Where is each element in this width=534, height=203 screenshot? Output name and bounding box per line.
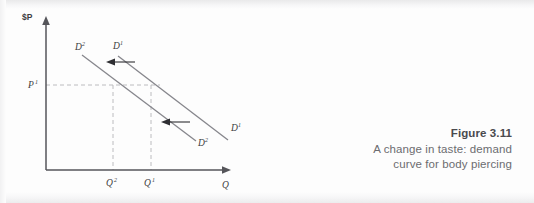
- x-tick-label-q1-base: Q: [144, 178, 151, 188]
- x-axis-arrowhead: [222, 166, 231, 174]
- curve-label-d2-top-superscript: 2: [82, 41, 85, 47]
- y-axis-arrowhead: [42, 16, 50, 25]
- figure-caption: Figure 3.11 A change in taste: demand cu…: [302, 126, 512, 173]
- curve-label-d2-top-base: D: [74, 42, 82, 52]
- axes: [42, 16, 231, 174]
- y-tick-label-superscript: 1: [35, 79, 38, 85]
- x-tick-label-q2: Q 2: [106, 177, 117, 189]
- curve-label-d2-end-superscript: 2: [205, 137, 208, 143]
- shift-arrow-upper-head: [106, 58, 115, 65]
- curve-label-d1-top-base: D: [112, 41, 120, 51]
- figure-caption-line-1: A change in taste: demand: [302, 142, 512, 158]
- curve-label-d1-top: D 1: [112, 40, 123, 52]
- shift-arrows: [106, 58, 190, 125]
- shift-arrow-lower-head: [161, 118, 170, 125]
- x-axis-title: Q: [222, 180, 229, 190]
- curve-label-d2-top: D 2: [74, 41, 85, 53]
- curve-label-d2-end-base: D: [197, 138, 205, 148]
- demand-curve-d2-line: [82, 55, 196, 141]
- y-tick-label-p1: P 1: [27, 79, 38, 91]
- demand-curve-d1-line: [118, 56, 228, 140]
- curve-label-d1-end: D 1: [230, 122, 241, 134]
- demand-curve-diagram: $P Q P 1 Q 2 Q 1 D 2: [0, 0, 270, 203]
- x-tick-label-q2-superscript: 2: [114, 177, 117, 183]
- y-axis-title: $P: [22, 12, 33, 22]
- figure-caption-line-2: curve for body piercing: [302, 157, 512, 173]
- curve-label-d1-end-base: D: [230, 123, 238, 133]
- y-tick-label-base: P: [27, 80, 34, 90]
- figure-caption-title: Figure 3.11: [302, 126, 512, 142]
- diagram-svg: $P Q P 1 Q 2 Q 1 D 2: [0, 0, 270, 203]
- x-tick-label-q1: Q 1: [144, 177, 155, 189]
- x-tick-label-q1-superscript: 1: [152, 177, 155, 183]
- figure-page: $P Q P 1 Q 2 Q 1 D 2: [0, 0, 534, 203]
- guide-lines: [46, 85, 160, 170]
- x-tick-label-q2-base: Q: [106, 178, 113, 188]
- curve-label-d2-end: D 2: [197, 137, 208, 149]
- demand-curves: [82, 55, 228, 141]
- curve-label-d1-top-superscript: 1: [120, 40, 123, 46]
- curve-label-d1-end-superscript: 1: [238, 122, 241, 128]
